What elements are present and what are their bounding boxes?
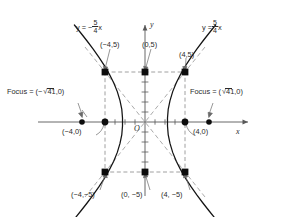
label-midpoint-top: (0,5) [142, 41, 157, 48]
label-corner-bottom-left: (−4,−5) [71, 191, 95, 198]
label-corner-top-right: (4,5) [179, 51, 194, 58]
marker-left-focus [79, 119, 85, 125]
hyperbola-figure: y = −54x y =54x y x O Focus = (−√41,0) F… [0, 0, 283, 217]
left-focus-label: Focus = (−√41,0) [7, 88, 64, 95]
label-vertex-left: (−4,0) [62, 128, 82, 135]
marker-right-focus [206, 119, 212, 125]
marker-corner-top-left [102, 69, 109, 76]
marker-vertex-left [102, 119, 109, 126]
marker-vertex-right [182, 119, 189, 126]
graph-canvas [0, 0, 283, 217]
right-asymptote-label: y =54x [202, 19, 222, 35]
marker-corner-bottom-right [182, 169, 189, 176]
marker-corner-top-right [182, 69, 189, 76]
x-axis [38, 120, 248, 125]
right-focus-label: Focus = (√41,0) [190, 88, 243, 95]
origin-label: O [134, 125, 140, 133]
left-asymptote-label: y = −54x [76, 19, 102, 35]
label-midpoint-bottom: (0, −5) [121, 191, 143, 198]
marker-midpoint-bottom [142, 169, 149, 176]
y-axis-label: y [150, 21, 154, 29]
marker-corner-bottom-left [102, 169, 109, 176]
marker-midpoint-top [142, 69, 149, 76]
label-corner-top-left: (−4,5) [100, 41, 120, 48]
label-vertex-right: (4,0) [193, 128, 208, 135]
x-axis-label: x [236, 128, 240, 136]
label-corner-bottom-right: (4, −5) [161, 191, 183, 198]
